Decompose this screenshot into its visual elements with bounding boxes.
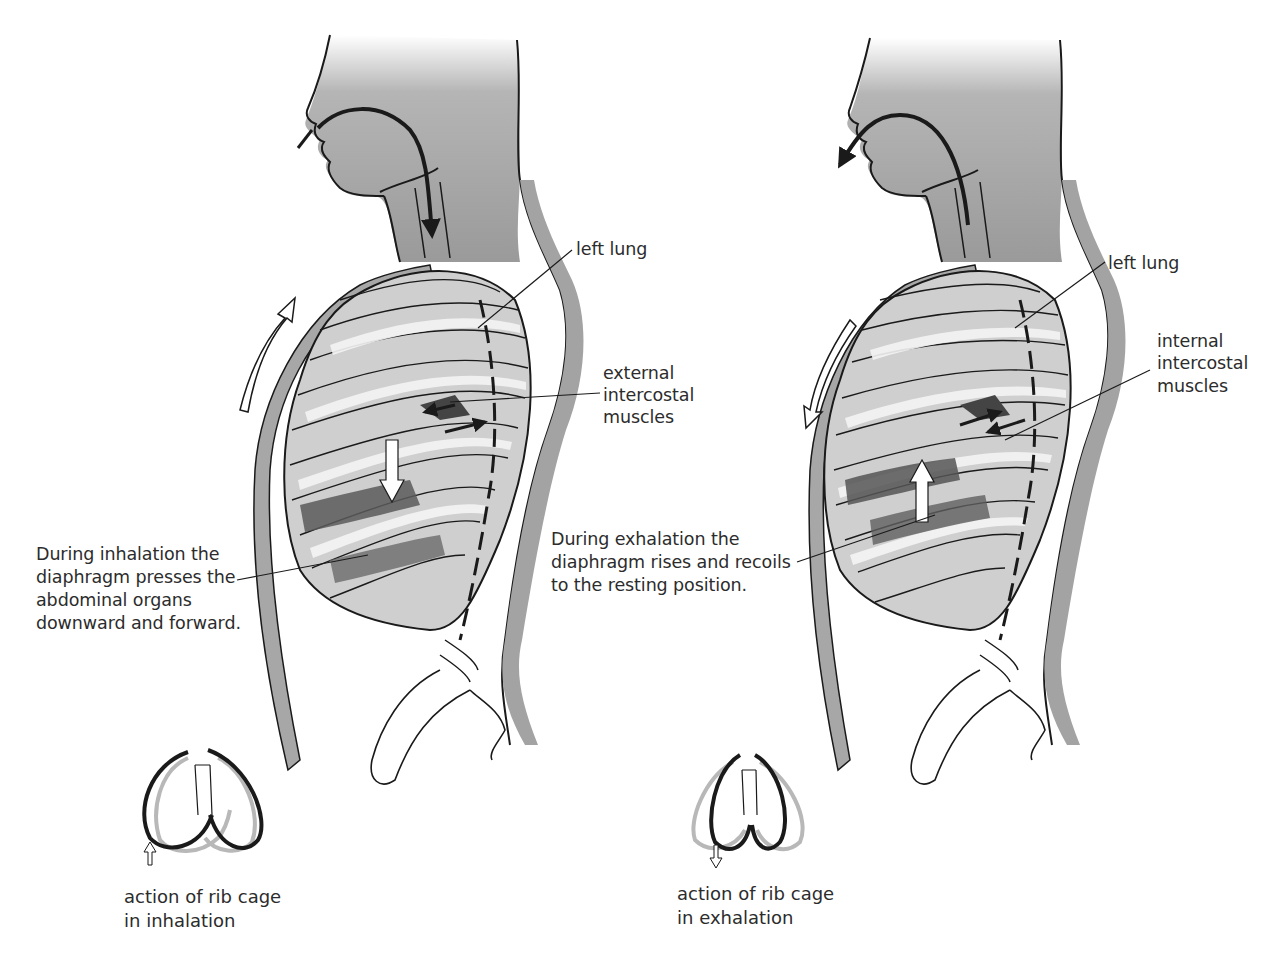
ribcage-exhalation-diagram (693, 755, 802, 868)
exhalation-diaphragm-text-line2: diaphragm rises and recoils (551, 551, 791, 573)
breathing-diagram: left lung external intercostal muscles D… (0, 0, 1282, 959)
illustration (0, 0, 1282, 959)
inhalation-diaphragm-text-line2: diaphragm presses the (36, 566, 236, 588)
exhalation-diaphragm-text-line1: During exhalation the (551, 528, 739, 550)
internal-intercostal-label-line2: intercostal (1157, 352, 1248, 374)
ribcage-inhalation-caption-line1: action of rib cage (124, 885, 281, 908)
inhalation-diaphragm-text-line4: downward and forward. (36, 612, 241, 634)
exhalation-diaphragm-text-line3: to the resting position. (551, 574, 747, 596)
left-lung-label-exhalation: left lung (1108, 252, 1179, 274)
ribcage-inhalation-caption-line2: in inhalation (124, 909, 236, 932)
inhalation-diaphragm-text-line1: During inhalation the (36, 543, 219, 565)
internal-intercostal-label-line1: internal (1157, 330, 1223, 352)
internal-intercostal-label-line3: muscles (1157, 375, 1228, 397)
left-lung-label-inhalation: left lung (576, 238, 647, 260)
external-intercostal-label-line3: muscles (603, 406, 674, 428)
ribcage-exhalation-caption-line1: action of rib cage (677, 882, 834, 905)
external-intercostal-label-line1: external (603, 362, 674, 384)
ribcage-exhalation-caption-line2: in exhalation (677, 906, 794, 929)
exhalation-figure (797, 38, 1150, 784)
external-intercostal-label-line2: intercostal (603, 384, 694, 406)
ribcage-inhalation-diagram (144, 750, 261, 865)
inhalation-figure (237, 35, 600, 784)
inhalation-diaphragm-text-line3: abdominal organs (36, 589, 192, 611)
